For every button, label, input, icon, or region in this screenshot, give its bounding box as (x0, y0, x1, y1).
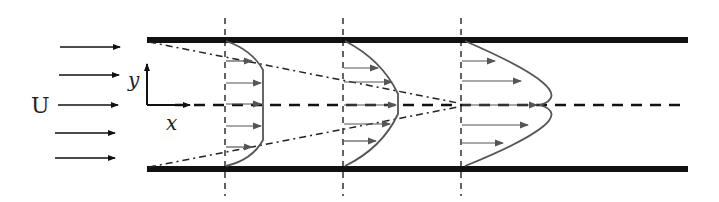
x-axis-label: x (166, 111, 177, 135)
profile-curve (465, 41, 551, 166)
boundary-layer-edge-top (149, 42, 458, 103)
coordinate-axes: y x (127, 64, 190, 135)
boundary-layer-edge-bottom (149, 107, 458, 167)
inlet-arrows (55, 47, 120, 158)
profile-curve (345, 41, 398, 166)
channel-flow-diagram: U y x (0, 0, 719, 202)
velocity-profile-station-1 (226, 41, 263, 166)
free-stream-label: U (31, 93, 50, 118)
velocity-profile-station-2 (344, 41, 398, 166)
velocity-profile-station-3 (462, 41, 551, 166)
y-axis-label: y (127, 68, 140, 92)
